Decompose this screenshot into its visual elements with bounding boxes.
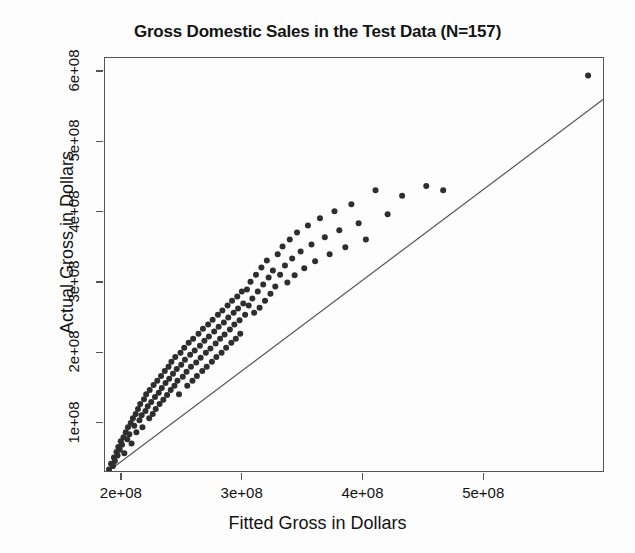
scatter-point: [147, 387, 153, 393]
scatter-point: [298, 248, 304, 254]
scatter-point: [248, 279, 254, 285]
scatter-point: [164, 392, 170, 398]
scatter-point: [217, 336, 223, 342]
scatter-point: [292, 272, 298, 278]
scatter-point: [205, 322, 211, 328]
scatter-point: [213, 341, 219, 347]
y-tick-mark: [96, 281, 103, 282]
scatter-point: [216, 324, 222, 330]
scatter-point: [221, 319, 227, 325]
y-tick-mark: [96, 352, 103, 353]
scatter-point: [237, 331, 243, 337]
scatter-point: [133, 429, 139, 435]
scatter-point: [262, 298, 268, 304]
scatter-point: [184, 369, 190, 375]
scatter-point: [170, 371, 176, 377]
y-tick-label: 5e+08: [65, 109, 82, 173]
scatter-point: [260, 281, 266, 287]
scatter-point: [139, 424, 145, 430]
scatter-point: [176, 391, 182, 397]
x-axis-title: Fitted Gross in Dollars: [0, 513, 635, 534]
scatter-point: [251, 310, 257, 316]
x-tick-mark: [483, 473, 484, 480]
scatter-point: [184, 383, 190, 389]
scatter-point: [178, 362, 184, 368]
scatter-point: [219, 308, 225, 314]
scatter-point: [207, 346, 213, 352]
x-tick-label: 4e+08: [327, 484, 397, 501]
scatter-point: [301, 265, 307, 271]
scatter-point: [213, 354, 219, 360]
scatter-point: [266, 274, 272, 280]
scatter-point: [225, 315, 231, 321]
scatter-point: [257, 305, 263, 311]
scatter-point: [228, 340, 234, 346]
scatter-point: [267, 291, 273, 297]
scatter-point: [192, 348, 198, 354]
scatter-point: [198, 355, 204, 361]
x-tick-label: 5e+08: [448, 484, 518, 501]
x-tick-mark: [362, 473, 363, 480]
chart-figure: Gross Domestic Sales in the Test Data (N…: [0, 0, 635, 553]
scatter-point: [180, 374, 186, 380]
scatter-point: [225, 303, 231, 309]
y-tick-label: 1e+08: [65, 390, 82, 454]
y-tick-label: 6e+08: [65, 39, 82, 103]
scatter-points: [105, 58, 604, 472]
scatter-point: [312, 258, 318, 264]
scatter-point: [201, 338, 207, 344]
scatter-point: [585, 73, 591, 79]
scatter-point: [294, 229, 300, 235]
scatter-point: [194, 373, 200, 379]
scatter-point: [187, 352, 193, 358]
scatter-point: [154, 378, 160, 384]
scatter-point: [331, 208, 337, 214]
scatter-point: [188, 364, 194, 370]
y-tick-mark: [96, 141, 103, 142]
scatter-point: [131, 423, 137, 429]
y-tick-mark: [96, 211, 103, 212]
scatter-point: [115, 452, 121, 458]
scatter-point: [284, 279, 290, 285]
scatter-point: [229, 298, 235, 304]
scatter-point: [223, 345, 229, 351]
scatter-point: [423, 183, 429, 189]
scatter-point: [148, 399, 154, 405]
scatter-point: [222, 331, 228, 337]
scatter-point: [244, 286, 250, 292]
scatter-point: [200, 326, 206, 332]
scatter-point: [264, 258, 270, 264]
x-tick-label: 2e+08: [86, 484, 156, 501]
scatter-point: [231, 322, 237, 328]
scatter-point: [121, 450, 127, 456]
scatter-point: [322, 234, 328, 240]
scatter-point: [275, 251, 281, 257]
scatter-point: [137, 401, 143, 407]
scatter-point: [373, 187, 379, 193]
scatter-point: [160, 397, 166, 403]
scatter-point: [356, 220, 362, 226]
x-tick-label: 3e+08: [207, 484, 277, 501]
scatter-point: [253, 272, 259, 278]
scatter-point: [210, 317, 216, 323]
scatter-point: [399, 193, 405, 199]
scatter-point: [363, 236, 369, 242]
scatter-point: [158, 373, 164, 379]
scatter-point: [235, 305, 241, 311]
scatter-point: [282, 263, 288, 269]
scatter-point: [186, 340, 192, 346]
scatter-point: [342, 244, 348, 250]
scatter-point: [258, 265, 264, 271]
scatter-point: [197, 343, 203, 349]
scatter-point: [277, 272, 283, 278]
scatter-point: [112, 458, 118, 464]
x-tick-mark: [241, 473, 242, 480]
scatter-point: [280, 244, 286, 250]
scatter-point: [305, 222, 311, 228]
scatter-point: [249, 296, 255, 302]
scatter-point: [348, 201, 354, 207]
scatter-point: [385, 211, 391, 217]
scatter-point: [174, 366, 180, 372]
scatter-point: [240, 300, 246, 306]
scatter-point: [233, 336, 239, 342]
